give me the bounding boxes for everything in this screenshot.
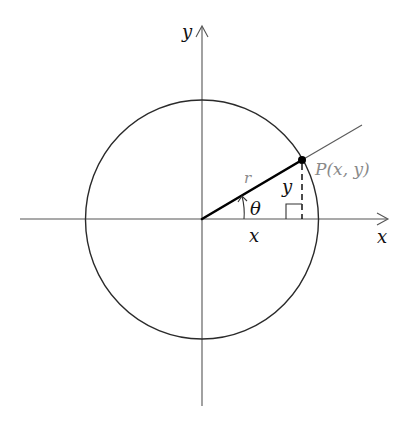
y-component-label: y (281, 176, 293, 197)
theta-label: θ (250, 198, 261, 219)
point-p (298, 156, 306, 164)
angle-arc (238, 196, 247, 219)
radius-label: r (244, 169, 252, 187)
y-axis-label: y (181, 21, 193, 42)
x-axis-label: x (377, 226, 387, 247)
point-label: P(x, y) (314, 159, 370, 179)
unit-circle-diagram: y x r θ x y P(x, y) (0, 0, 410, 425)
terminal-ray (302, 125, 362, 160)
right-angle-marker (286, 204, 302, 219)
x-component-label: x (249, 225, 259, 246)
